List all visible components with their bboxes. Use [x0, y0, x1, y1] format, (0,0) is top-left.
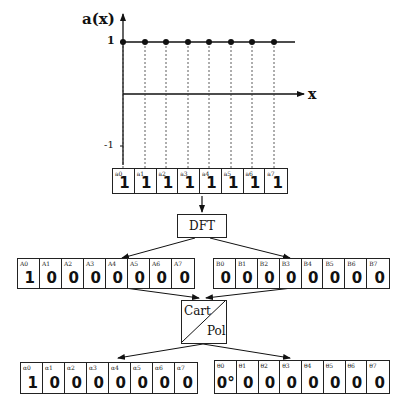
cell-subscript: θ7 — [369, 362, 376, 369]
cell-value: 0 — [160, 374, 170, 392]
cell-subscript: B1 — [238, 260, 246, 267]
cell-a1: a11 — [135, 169, 157, 193]
cell-subscript: B7 — [369, 260, 377, 267]
cell-value: 0 — [220, 269, 230, 287]
cell-a2: a21 — [157, 169, 179, 193]
cell-subscript: A4 — [108, 260, 116, 267]
cell-subscript: θ1 — [239, 362, 246, 369]
cell-A6: A60 — [150, 259, 172, 288]
dft-label: DFT — [189, 219, 215, 233]
cell-a4: a41 — [200, 169, 222, 193]
cell-theta5: θ50 — [324, 361, 346, 393]
cell-value: 0 — [91, 269, 101, 287]
cell-subscript: A3 — [86, 260, 94, 267]
cell-theta2: θ20 — [259, 361, 281, 393]
cell-A3: A30 — [84, 259, 106, 288]
cell-value: 0 — [183, 374, 193, 392]
cell-theta4: θ40 — [302, 361, 324, 393]
tick-label-1: 1 — [107, 34, 115, 47]
cell-a0: a01 — [113, 169, 135, 193]
cell-value: 1 — [250, 174, 260, 192]
array-A: A01 A10 A20 A30 A40 A50 A60 A70 — [17, 258, 195, 289]
cell-value: 0 — [50, 374, 60, 392]
cell-theta0: θ00° — [215, 361, 237, 393]
cell-subscript: A1 — [42, 260, 50, 267]
array-alpha: α01 α10 α20 α30 α40 α50 α60 α70 — [20, 362, 198, 394]
cell-subscript: A7 — [174, 260, 182, 267]
cell-B7: B70 — [367, 259, 389, 288]
cell-subscript: A5 — [130, 260, 138, 267]
cell-value: 0 — [375, 269, 385, 287]
cell-B2: B20 — [258, 259, 280, 288]
cell-subscript: θ6 — [348, 362, 355, 369]
y-axis-label: a(x) — [82, 10, 115, 28]
cell-value: 0 — [69, 269, 79, 287]
cart-pol-block: Cart Pol — [181, 300, 227, 344]
cell-theta3: θ30 — [280, 361, 302, 393]
cell-theta1: θ10 — [237, 361, 259, 393]
cell-value: 1 — [228, 174, 238, 192]
pol-label: Pol — [207, 324, 226, 338]
cell-alpha7: α70 — [175, 363, 197, 393]
cell-subscript: B5 — [325, 260, 333, 267]
cell-B5: B50 — [323, 259, 345, 288]
cell-B1: B10 — [236, 259, 258, 288]
cell-B3: B30 — [280, 259, 302, 288]
cell-alpha2: α20 — [65, 363, 87, 393]
cell-subscript: θ2 — [261, 362, 268, 369]
cell-subscript: B6 — [347, 260, 355, 267]
cell-a5: a51 — [222, 169, 244, 193]
array-B: B00 B10 B20 B30 B40 B50 B60 B70 — [213, 258, 390, 289]
cell-subscript: θ0 — [217, 362, 224, 369]
cell-alpha5: α50 — [131, 363, 153, 393]
cell-value: 0 — [113, 269, 123, 287]
cell-alpha0: α01 — [21, 363, 43, 393]
cell-subscript: α2 — [67, 364, 75, 371]
cell-value: 0 — [116, 374, 126, 392]
cell-value: 1 — [273, 174, 283, 192]
cell-value: 0 — [287, 374, 297, 392]
cell-A0: A01 — [18, 259, 40, 288]
cell-value: 0 — [330, 269, 340, 287]
cell-A2: A20 — [62, 259, 84, 288]
cell-value: 1 — [141, 174, 151, 192]
cell-value: 0 — [352, 374, 362, 392]
cell-alpha3: α30 — [87, 363, 109, 393]
dft-block: DFT — [177, 214, 227, 238]
cell-subscript: θ3 — [282, 362, 289, 369]
cell-a6: a61 — [244, 169, 266, 193]
cell-value: 0 — [265, 374, 275, 392]
cell-a7: a71 — [265, 169, 287, 193]
cell-A5: A50 — [128, 259, 150, 288]
cell-B0: B00 — [214, 259, 236, 288]
cell-subscript: B4 — [304, 260, 312, 267]
array-theta: θ00° θ10 θ20 θ30 θ40 θ50 θ60 θ70 — [214, 360, 390, 394]
cell-value: 0 — [330, 374, 340, 392]
tick-label-neg1: -1 — [104, 139, 114, 150]
cell-subscript: α0 — [23, 364, 31, 371]
cell-value: 0 — [375, 374, 385, 392]
cell-value: 0 — [243, 374, 253, 392]
cell-subscript: B2 — [260, 260, 268, 267]
cell-B6: B60 — [345, 259, 367, 288]
cell-subscript: α7 — [177, 364, 185, 371]
cell-alpha1: α10 — [43, 363, 65, 393]
cell-theta6: θ60 — [346, 361, 368, 393]
cell-value: 0 — [308, 374, 318, 392]
cell-subscript: B3 — [282, 260, 290, 267]
cell-subscript: α4 — [111, 364, 119, 371]
x-axis-label: x — [308, 86, 316, 102]
cell-subscript: B0 — [216, 260, 224, 267]
cell-value: 0° — [217, 374, 235, 392]
cell-value: 0 — [47, 269, 57, 287]
cell-value: 1 — [25, 269, 35, 287]
cell-subscript: θ4 — [304, 362, 311, 369]
cell-A1: A10 — [40, 259, 62, 288]
cell-subscript: α5 — [133, 364, 141, 371]
cell-value: 0 — [180, 269, 190, 287]
cell-B4: B40 — [302, 259, 324, 288]
cell-value: 0 — [157, 269, 167, 287]
cell-value: 1 — [206, 174, 216, 192]
cell-subscript: A2 — [64, 260, 72, 267]
cell-value: 0 — [308, 269, 318, 287]
